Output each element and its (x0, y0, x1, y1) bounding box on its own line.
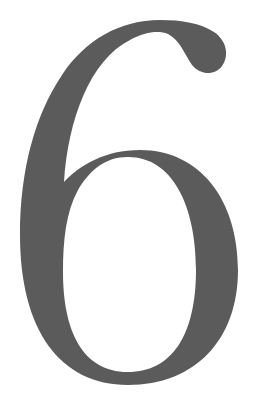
numeral-six-glyph (0, 0, 254, 409)
numeral-six-figure: 6 (0, 0, 254, 409)
